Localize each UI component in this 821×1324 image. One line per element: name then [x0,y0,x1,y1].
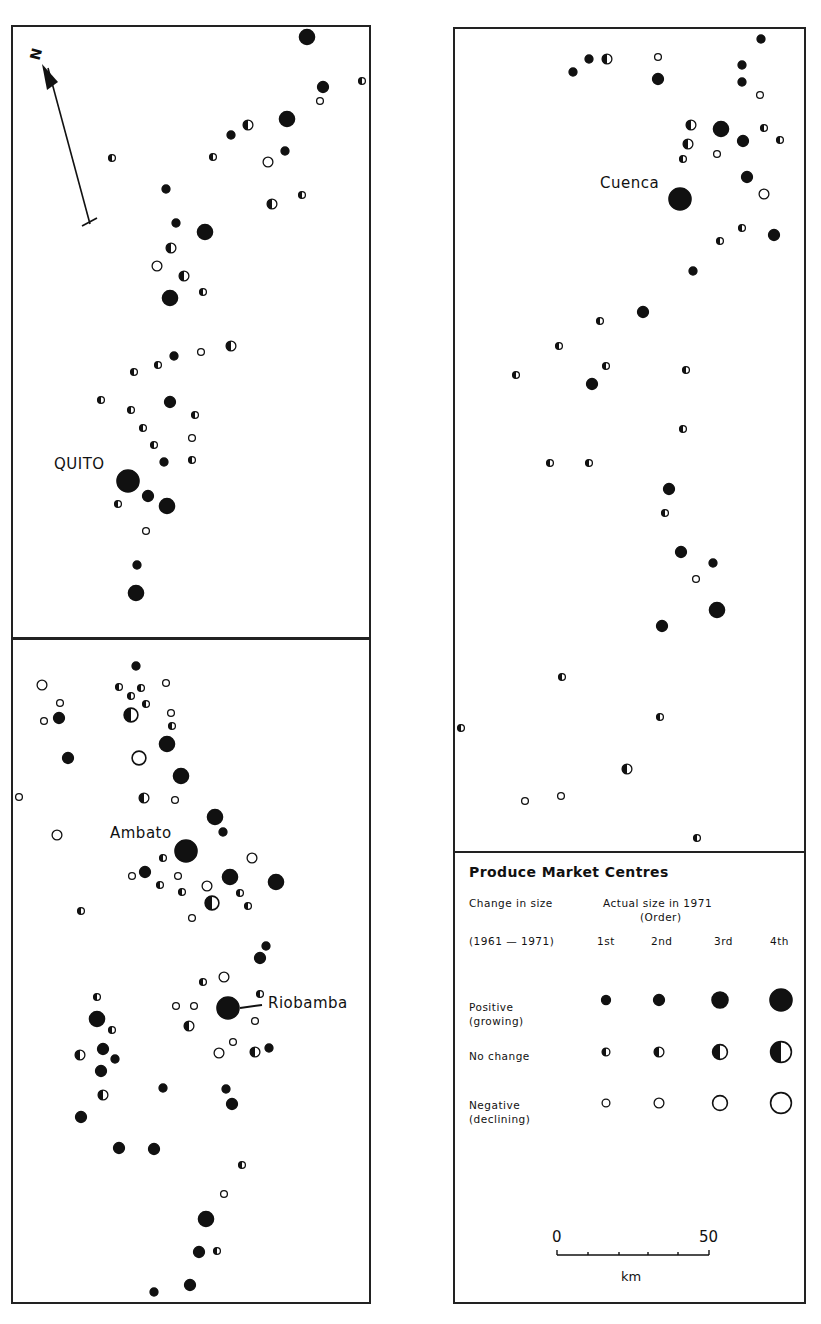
scale-bar [0,0,821,1324]
scale-unit: km [621,1269,641,1284]
scale-start: 0 [552,1228,562,1246]
scale-end: 50 [699,1228,718,1246]
